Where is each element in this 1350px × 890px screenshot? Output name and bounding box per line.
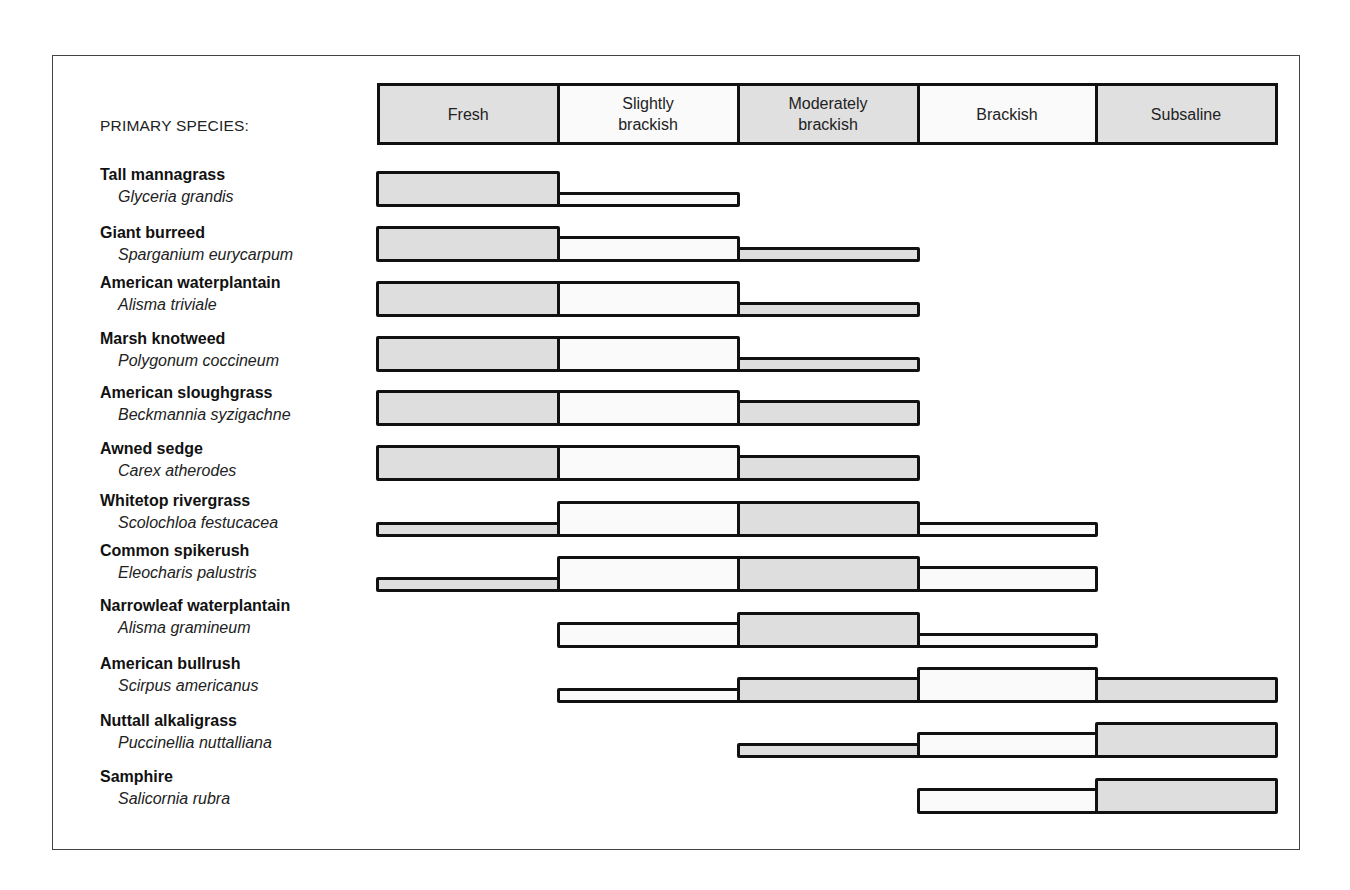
- tolerance-bar-medium: [1095, 677, 1278, 703]
- zone-label: Subsaline: [1151, 104, 1221, 125]
- tolerance-bar-low: [917, 522, 1098, 537]
- zone-label: Brackish: [976, 104, 1037, 125]
- species-common-name: Whitetop rivergrass: [100, 492, 250, 510]
- tolerance-bar-low: [557, 688, 740, 703]
- tolerance-bar-high: [557, 445, 740, 481]
- species-common-name: Nuttall alkaligrass: [100, 712, 237, 730]
- tolerance-bar-high: [376, 445, 560, 481]
- tolerance-bar-high: [557, 556, 740, 592]
- tolerance-bar-high: [376, 226, 560, 262]
- tolerance-bar-medium: [917, 566, 1098, 592]
- tolerance-bar-high: [376, 281, 560, 317]
- tolerance-bar-medium: [917, 732, 1098, 758]
- species-common-name: Tall mannagrass: [100, 166, 225, 184]
- zone-header-brackish: Brackish: [917, 83, 1098, 145]
- tolerance-bar-medium: [557, 236, 740, 262]
- tolerance-bar-low: [737, 743, 920, 758]
- tolerance-bar-high: [1095, 722, 1278, 758]
- tolerance-bar-low: [376, 577, 560, 592]
- zone-header-moderately-brackish: Moderately brackish: [737, 83, 920, 145]
- species-latin-name: Alisma gramineum: [118, 619, 250, 637]
- zone-label: Moderately brackish: [773, 93, 883, 135]
- tolerance-bar-high: [557, 501, 740, 537]
- species-common-name: Marsh knotweed: [100, 330, 225, 348]
- tolerance-bar-low: [557, 192, 740, 207]
- tolerance-bar-high: [917, 667, 1098, 703]
- zone-label: Slightly brackish: [593, 93, 703, 135]
- tolerance-bar-medium: [917, 788, 1098, 814]
- zone-header-subsaline: Subsaline: [1095, 83, 1278, 145]
- species-latin-name: Carex atherodes: [118, 462, 236, 480]
- tolerance-bar-high: [737, 501, 920, 537]
- zone-label: Fresh: [448, 104, 489, 125]
- species-common-name: American sloughgrass: [100, 384, 273, 402]
- tolerance-bar-high: [376, 336, 560, 372]
- species-latin-name: Sparganium eurycarpum: [118, 246, 293, 264]
- primary-species-label: PRIMARY SPECIES:: [100, 117, 249, 135]
- tolerance-bar-low: [737, 302, 920, 317]
- zone-header-slightly-brackish: Slightly brackish: [557, 83, 740, 145]
- species-latin-name: Salicornia rubra: [118, 790, 230, 808]
- species-latin-name: Alisma triviale: [118, 296, 217, 314]
- tolerance-bar-high: [376, 171, 560, 207]
- tolerance-bar-high: [1095, 778, 1278, 814]
- species-common-name: American bullrush: [100, 655, 240, 673]
- species-common-name: Awned sedge: [100, 440, 203, 458]
- tolerance-bar-low: [917, 633, 1098, 648]
- tolerance-bar-low: [376, 522, 560, 537]
- zone-header-fresh: Fresh: [377, 83, 560, 145]
- tolerance-bar-high: [557, 390, 740, 426]
- species-latin-name: Glyceria grandis: [118, 188, 234, 206]
- tolerance-bar-low: [737, 357, 920, 372]
- species-common-name: Giant burreed: [100, 224, 205, 242]
- tolerance-bar-high: [376, 390, 560, 426]
- tolerance-bar-high: [737, 612, 920, 648]
- tolerance-bar-medium: [557, 622, 740, 648]
- species-latin-name: Beckmannia syzigachne: [118, 406, 291, 424]
- tolerance-bar-medium: [737, 455, 920, 481]
- species-latin-name: Eleocharis palustris: [118, 564, 257, 582]
- species-common-name: American waterplantain: [100, 274, 281, 292]
- species-common-name: Samphire: [100, 768, 173, 786]
- species-latin-name: Puccinellia nuttalliana: [118, 734, 272, 752]
- species-latin-name: Scirpus americanus: [118, 677, 259, 695]
- tolerance-bar-low: [737, 247, 920, 262]
- species-common-name: Common spikerush: [100, 542, 249, 560]
- tolerance-bar-high: [557, 281, 740, 317]
- species-latin-name: Scolochloa festucacea: [118, 514, 278, 532]
- tolerance-bar-high: [557, 336, 740, 372]
- tolerance-bar-high: [737, 556, 920, 592]
- tolerance-bar-medium: [737, 677, 920, 703]
- species-latin-name: Polygonum coccineum: [118, 352, 279, 370]
- tolerance-bar-medium: [737, 400, 920, 426]
- species-common-name: Narrowleaf waterplantain: [100, 597, 290, 615]
